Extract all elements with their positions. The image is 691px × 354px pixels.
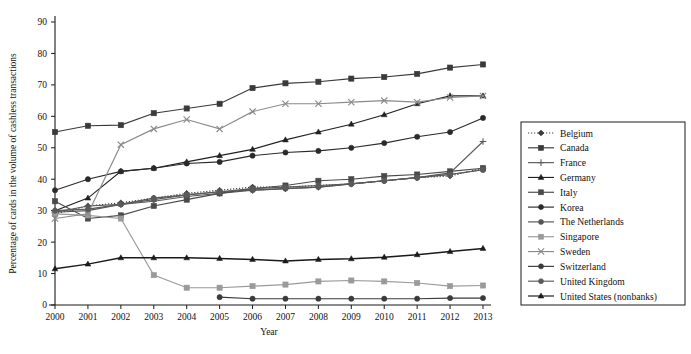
data-point-circle xyxy=(382,178,387,183)
data-point-circle xyxy=(250,296,255,301)
data-point-circle xyxy=(151,197,156,202)
data-point-square xyxy=(151,273,156,278)
data-point-circle xyxy=(349,181,354,186)
data-point-x xyxy=(118,142,124,148)
data-point-circle xyxy=(539,219,544,224)
series-belgium xyxy=(52,165,486,217)
y-tick-label: 0 xyxy=(42,300,47,310)
x-tick-label: 2006 xyxy=(243,312,262,322)
data-point-x xyxy=(184,116,190,122)
x-tick-label: 2010 xyxy=(375,312,394,322)
data-point-circle xyxy=(480,115,485,120)
x-tick-label: 2005 xyxy=(210,312,229,322)
legend-item-label: Korea xyxy=(560,202,584,213)
data-point-square xyxy=(283,282,288,287)
x-tick-label: 2001 xyxy=(78,312,97,322)
data-point-circle xyxy=(283,296,288,301)
legend-item-label: Italy xyxy=(560,187,578,198)
data-point-square xyxy=(382,279,387,284)
data-point-square xyxy=(415,71,420,76)
x-tick-label: 2009 xyxy=(342,312,361,322)
data-point-square xyxy=(316,79,321,84)
series-canada xyxy=(52,62,485,135)
chart-figure: 0102030405060708090200020012002200320042… xyxy=(0,0,691,354)
y-axis-title: Percentage of cards in the volume of cas… xyxy=(8,53,18,274)
data-point-square xyxy=(447,284,452,289)
data-point-circle xyxy=(184,161,189,166)
x-tick-label: 2012 xyxy=(441,312,460,322)
y-tick-label: 60 xyxy=(38,112,48,122)
data-point-circle xyxy=(415,175,420,180)
data-point-square xyxy=(480,283,485,288)
data-point-square xyxy=(250,85,255,90)
data-point-square xyxy=(151,111,156,116)
data-point-circle xyxy=(217,159,222,164)
x-tick-label: 2011 xyxy=(408,312,427,322)
data-point-square xyxy=(539,190,544,195)
data-point-square xyxy=(349,278,354,283)
data-point-square xyxy=(539,234,544,239)
data-point-circle xyxy=(316,183,321,188)
y-tick-label: 10 xyxy=(38,269,48,279)
legend-item-label: Sweden xyxy=(560,246,591,257)
data-point-circle xyxy=(217,189,222,194)
data-point-circle xyxy=(217,295,222,300)
data-point-square xyxy=(415,280,420,285)
y-tick-label: 90 xyxy=(38,17,48,27)
legend-item-label: United Kingdom xyxy=(560,276,625,287)
x-tick-label: 2008 xyxy=(309,312,328,322)
y-tick-label: 40 xyxy=(38,175,48,185)
data-point-circle xyxy=(118,202,123,207)
legend-item-label: Canada xyxy=(560,142,590,153)
data-point-circle xyxy=(480,295,485,300)
data-point-circle xyxy=(52,188,57,193)
data-point-circle xyxy=(382,140,387,145)
data-point-square xyxy=(217,285,222,290)
data-point-circle xyxy=(539,264,544,269)
legend-item-label: Germany xyxy=(560,172,596,183)
data-point-square xyxy=(447,65,452,70)
data-point-square xyxy=(217,101,222,106)
data-point-square xyxy=(250,284,255,289)
y-tick-label: 20 xyxy=(38,238,48,248)
legend-item-label: United States (nonbanks) xyxy=(560,291,657,303)
series-line xyxy=(55,96,483,211)
x-tick-label: 2007 xyxy=(276,312,295,322)
data-point-circle xyxy=(85,206,90,211)
data-point-circle xyxy=(250,186,255,191)
data-point-circle xyxy=(316,148,321,153)
data-point-circle xyxy=(316,296,321,301)
x-tick-label: 2004 xyxy=(177,312,196,322)
data-point-x xyxy=(151,126,157,132)
data-point-circle xyxy=(349,145,354,150)
data-point-square xyxy=(52,129,57,134)
legend-item-label: The Netherlands xyxy=(560,216,624,227)
series-sweden xyxy=(52,93,486,222)
legend-item-label: France xyxy=(560,157,586,168)
data-point-square xyxy=(52,199,57,204)
data-point-square xyxy=(382,74,387,79)
data-point-circle xyxy=(415,296,420,301)
series-line xyxy=(55,96,483,219)
legend-item-label: Belgium xyxy=(560,128,594,139)
data-point-circle xyxy=(539,279,544,284)
data-point-circle xyxy=(184,192,189,197)
data-point-x xyxy=(217,126,223,132)
x-tick-label: 2013 xyxy=(474,312,493,322)
data-point-square xyxy=(316,279,321,284)
data-point-circle xyxy=(349,296,354,301)
data-point-circle xyxy=(447,172,452,177)
data-point-circle xyxy=(283,150,288,155)
data-point-circle xyxy=(539,205,544,210)
data-point-circle xyxy=(118,169,123,174)
data-point-square xyxy=(283,81,288,86)
data-point-circle xyxy=(85,177,90,182)
data-point-circle xyxy=(52,208,57,213)
legend-item-label: Singapore xyxy=(560,231,599,242)
series-switzerland xyxy=(217,295,486,302)
x-tick-label: 2000 xyxy=(46,312,65,322)
cashless-transactions-line-chart: 0102030405060708090200020012002200320042… xyxy=(0,0,691,354)
y-tick-label: 30 xyxy=(38,206,48,216)
legend-item-label: Switzerland xyxy=(560,261,606,272)
x-tick-label: 2002 xyxy=(111,312,130,322)
